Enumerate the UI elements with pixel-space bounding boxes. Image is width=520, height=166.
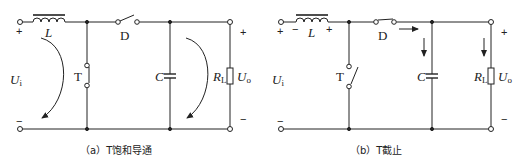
input-minus-sign: − [277, 116, 283, 127]
load-resistor-icon [227, 25, 233, 127]
output-terminal-minus [489, 127, 494, 132]
current-loop-arrow-icon [186, 38, 208, 118]
input-terminal-minus [18, 127, 23, 132]
load-resistor-label: RL [474, 70, 487, 85]
junction-dot [430, 20, 433, 23]
output-terminal-plus [228, 20, 233, 25]
inductor-label: L [45, 26, 52, 39]
input-minus-sign: − [16, 116, 22, 127]
transistor-switch-label: T [74, 70, 82, 83]
output-plus-sign: + [501, 27, 507, 38]
transistor-switch-icon [85, 22, 90, 129]
output-terminal-minus [228, 127, 233, 132]
input-plus-sign: + [277, 26, 283, 37]
input-terminal-plus [18, 20, 23, 25]
output-voltage-label: Uo [237, 70, 251, 85]
panel-b-caption: （b）T截止 [350, 142, 402, 157]
output-plus-sign: + [240, 27, 246, 38]
diode-switch-label: D [378, 29, 387, 42]
output-terminal-plus [489, 20, 494, 25]
junction-dot [168, 20, 171, 23]
junction-dot [430, 127, 433, 130]
capacitor-icon [164, 22, 176, 129]
junction-dot [347, 127, 350, 130]
diode-switch-label: D [120, 29, 129, 42]
diode-switch-icon [116, 15, 140, 24]
input-terminal-minus [279, 127, 284, 132]
input-terminal-plus [279, 20, 284, 25]
diode-switch-icon [374, 19, 397, 24]
junction-dot [85, 20, 88, 23]
inductor-icon [284, 15, 329, 22]
load-resistor-label: RL [213, 70, 226, 85]
capacitor-label: C [155, 70, 164, 83]
junction-dot [85, 127, 88, 130]
junction-dot [347, 20, 350, 23]
current-loop-arrow-icon [41, 38, 64, 118]
input-voltage-label: Ui [10, 73, 22, 88]
junction-dot [168, 127, 171, 130]
inductor-plus-sign: + [326, 24, 332, 35]
input-plus-sign: + [16, 26, 22, 37]
inductor-icon [23, 15, 66, 22]
capacitor-label: C [417, 70, 426, 83]
panel-a-caption: （a）T饱和导通 [80, 142, 152, 157]
output-minus-sign: − [501, 114, 507, 125]
transistor-switch-label: T [336, 70, 344, 83]
inductor-label: L [308, 26, 315, 39]
output-voltage-label: Uo [498, 70, 512, 85]
inductor-minus-sign: − [292, 24, 298, 35]
load-resistor-icon [488, 25, 494, 127]
output-minus-sign: − [240, 114, 246, 125]
transistor-switch-icon [347, 22, 358, 129]
input-voltage-label: Ui [272, 73, 284, 88]
capacitor-icon [426, 22, 438, 129]
